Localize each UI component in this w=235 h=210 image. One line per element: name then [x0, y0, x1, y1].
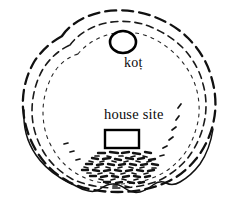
- kot-label: koṭ: [124, 56, 143, 70]
- kot-circle-symbol: [110, 31, 136, 53]
- house-site-label: house site: [104, 107, 164, 122]
- base-scalloped-line: [24, 110, 213, 192]
- site-map-drawing: [0, 0, 235, 210]
- house-site-rectangle-symbol: [105, 130, 139, 148]
- site-map-figure: koṭ house site: [0, 0, 235, 210]
